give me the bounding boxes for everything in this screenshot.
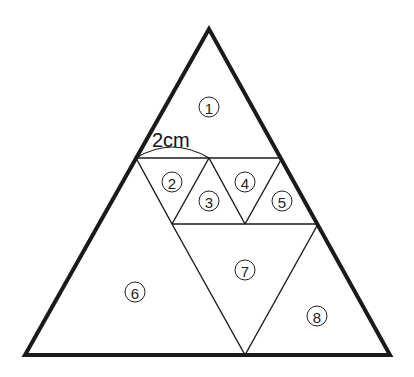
region-label-1: 1: [199, 97, 219, 117]
region-label-4: 4: [235, 172, 255, 192]
region-label-3: 3: [199, 191, 219, 211]
edge-6-7: [172, 224, 245, 355]
svg-text:6: 6: [131, 285, 139, 302]
dimension-label: 2cm: [152, 129, 190, 151]
outer-triangle: [25, 29, 390, 355]
svg-text:4: 4: [241, 175, 249, 192]
svg-text:7: 7: [241, 263, 249, 280]
region-label-6: 6: [125, 282, 145, 302]
region-label-8: 8: [307, 306, 327, 326]
svg-text:5: 5: [278, 194, 286, 211]
region-label-7: 7: [235, 260, 255, 280]
region-label-2: 2: [162, 172, 182, 192]
svg-text:8: 8: [313, 309, 321, 326]
edge-2-3: [172, 158, 209, 224]
svg-text:2: 2: [168, 175, 176, 192]
svg-text:3: 3: [205, 194, 213, 211]
triangle-diagram: 2cm 1 2 3 4 5 6 7 8: [0, 0, 414, 377]
edge-7-8: [245, 224, 318, 355]
region-label-5: 5: [272, 191, 292, 211]
svg-text:1: 1: [205, 100, 213, 117]
edge-4-5: [245, 158, 282, 224]
